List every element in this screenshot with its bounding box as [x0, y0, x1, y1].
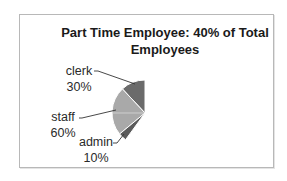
data-label-staff: staff 60% — [46, 109, 80, 141]
label-admin-name: admin — [76, 134, 116, 150]
pie-plot — [0, 0, 287, 181]
label-clerk-name: clerk — [62, 63, 96, 79]
label-staff-name: staff — [46, 109, 80, 125]
leader-line-clerk — [94, 71, 135, 84]
label-staff-percent: 60% — [46, 125, 80, 141]
leader-line-staff — [79, 110, 116, 118]
label-clerk-percent: 30% — [62, 79, 96, 95]
data-label-clerk: clerk 30% — [62, 63, 96, 95]
data-label-admin: admin 10% — [76, 134, 116, 166]
label-admin-percent: 10% — [76, 150, 116, 166]
